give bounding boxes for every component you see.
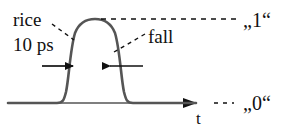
rise-time-label: rice [13,10,41,29]
logic-low-label: „0“ [243,93,271,113]
fall-time-label: fall [148,27,173,46]
logic-high-label: „1“ [243,10,271,30]
rise-callout-leader-line [52,24,74,40]
pulse-width-label: 10 ps [13,35,54,54]
time-axis-label: t [196,110,201,127]
pulse-diagram: rice 10 ps fall „1“ „0“ t [0,0,292,133]
